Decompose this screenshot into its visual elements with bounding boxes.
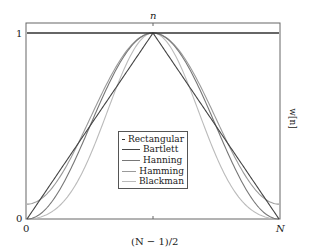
- legend-label: Hamming: [139, 167, 184, 176]
- legend-item-hamming: Hamming: [122, 166, 184, 177]
- legend-item-bartlett: Bartlett: [122, 145, 184, 156]
- top-label: n: [150, 11, 156, 21]
- series-line-hanning: [27, 33, 279, 219]
- legend-swatch-line-icon: [122, 149, 140, 150]
- legend-swatch-line-icon: [122, 181, 136, 182]
- y-tick-zero: 0: [16, 214, 22, 224]
- legend-swatch-line-icon: [122, 171, 136, 172]
- legend-item-rectangular: Rectangular: [122, 134, 184, 145]
- chart-plot-area: [0, 0, 312, 251]
- series-lines: [27, 33, 279, 219]
- legend-label: Bartlett: [143, 145, 178, 154]
- y-tick-one: 1: [16, 29, 22, 39]
- legend-swatch-line-icon: [122, 160, 140, 161]
- legend: Rectangular Bartlett Hanning Hamming Bla…: [118, 131, 188, 189]
- series-line-blackman: [27, 33, 279, 219]
- x-tick-mid: (N − 1)/2: [131, 237, 178, 247]
- x-tick-zero: 0: [23, 224, 29, 234]
- legend-label: Hanning: [143, 156, 182, 165]
- series-line-bartlett: [27, 33, 279, 219]
- legend-swatch-line-icon: [122, 139, 125, 140]
- x-tick-end: N: [276, 224, 285, 234]
- legend-label: Blackman: [139, 177, 184, 186]
- axes-frame: [26, 23, 280, 219]
- y-axis-label: w[n]: [288, 108, 297, 129]
- legend-label: Rectangular: [128, 135, 184, 144]
- legend-item-blackman: Blackman: [122, 176, 184, 187]
- legend-item-hanning: Hanning: [122, 155, 184, 166]
